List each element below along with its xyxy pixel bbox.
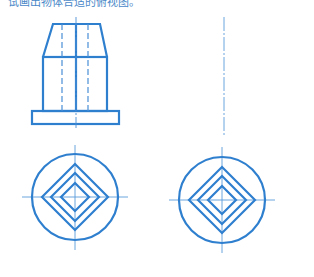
top-view-answer [169, 147, 275, 253]
top-view-given [22, 145, 128, 250]
front-view-base [32, 111, 119, 124]
drawing-canvas [0, 0, 314, 277]
front-view [32, 24, 119, 124]
